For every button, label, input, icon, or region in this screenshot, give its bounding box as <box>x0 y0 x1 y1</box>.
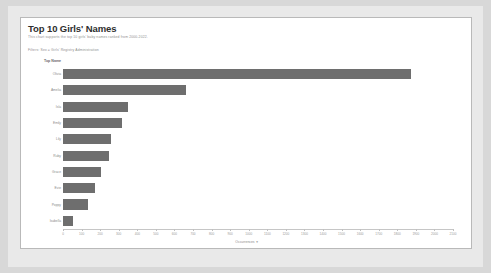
x-axis-tick-label: 500 <box>153 232 158 236</box>
bar[interactable] <box>63 134 111 144</box>
x-axis-tick <box>360 229 361 231</box>
category-label: Lily <box>56 137 61 141</box>
x-axis-tick-label: 1400 <box>320 232 327 236</box>
x-axis-tick-label: 1200 <box>282 232 289 236</box>
x-axis-tick <box>82 229 83 231</box>
bar[interactable] <box>63 102 128 112</box>
x-axis-tick <box>230 229 231 231</box>
x-axis-tick <box>286 229 287 231</box>
bar[interactable] <box>63 216 73 226</box>
bar[interactable] <box>63 199 88 209</box>
x-axis-tick-label: 600 <box>172 232 177 236</box>
category-label: Amelia <box>51 88 61 92</box>
x-axis-tick-label: 2100 <box>450 232 457 236</box>
dashboard-card: Top 10 Girls' Names This chart supports … <box>20 17 472 249</box>
x-axis-tick <box>434 229 435 231</box>
filter-description: Filters: Sex = Girls' Registry Administr… <box>28 48 99 52</box>
x-axis-tick <box>453 229 454 231</box>
x-axis-tick-label: 1300 <box>301 232 308 236</box>
x-axis-tick-label: 900 <box>228 232 233 236</box>
dashboard-subtitle: This chart supports the top 10 girls' ba… <box>28 35 148 39</box>
x-axis-tick <box>212 229 213 231</box>
sort-descending-icon[interactable]: ▼ <box>256 240 259 244</box>
x-axis-tick <box>100 229 101 231</box>
x-axis-tick-label: 1700 <box>375 232 382 236</box>
x-axis-tick <box>323 229 324 231</box>
bar[interactable] <box>63 183 95 193</box>
x-axis-tick <box>156 229 157 231</box>
x-axis-title: Occurrences ▼ <box>21 240 473 244</box>
bar[interactable] <box>63 85 186 95</box>
category-label: Grace <box>52 170 61 174</box>
x-axis-tick-label: 100 <box>79 232 84 236</box>
x-axis-tick-label: 1500 <box>338 232 345 236</box>
x-axis-tick <box>174 229 175 231</box>
x-axis-tick <box>249 229 250 231</box>
x-axis-tick <box>119 229 120 231</box>
bar[interactable] <box>63 151 109 161</box>
category-label: Emily <box>53 121 61 125</box>
x-axis-tick <box>193 229 194 231</box>
bar-chart-plot-area: OliviaAmeliaIslaEmilyLilyRubyGraceEviePo… <box>63 66 453 229</box>
x-axis-tick <box>342 229 343 231</box>
x-axis-tick-label: 1600 <box>357 232 364 236</box>
category-label: Evie <box>55 186 61 190</box>
x-axis-tick-label: 1100 <box>264 232 271 236</box>
x-axis-tick-label: 200 <box>98 232 103 236</box>
x-axis-tick <box>63 229 64 231</box>
x-axis-tick <box>137 229 138 231</box>
category-label: Isabella <box>50 219 61 223</box>
x-axis-tick-label: 1900 <box>412 232 419 236</box>
x-axis-tick-label: 2000 <box>431 232 438 236</box>
category-label: Poppy <box>52 203 61 207</box>
screenshot-root: Top 10 Girls' Names This chart supports … <box>0 0 491 273</box>
x-axis-tick <box>397 229 398 231</box>
page-title: Top 10 Girls' Names <box>28 23 116 34</box>
x-axis-tick-label: 300 <box>116 232 121 236</box>
category-label: Olivia <box>53 72 61 76</box>
bar[interactable] <box>63 118 122 128</box>
x-axis-tick <box>304 229 305 231</box>
x-axis-tick-label: 700 <box>190 232 195 236</box>
category-label: Isla <box>56 105 61 109</box>
x-axis-line <box>63 229 453 230</box>
x-axis-tick <box>267 229 268 231</box>
x-axis-tick <box>416 229 417 231</box>
x-axis-tick-label: 400 <box>135 232 140 236</box>
x-axis-tick-label: 1800 <box>394 232 401 236</box>
series-legend-label: Top Name <box>44 59 61 63</box>
category-label: Ruby <box>53 154 61 158</box>
x-axis-tick-label: 800 <box>209 232 214 236</box>
x-axis-title-text: Occurrences <box>235 240 254 244</box>
x-axis-tick-label: 1000 <box>245 232 252 236</box>
x-axis-tick <box>379 229 380 231</box>
bar[interactable] <box>63 167 101 177</box>
x-axis-tick-label: 0 <box>62 232 64 236</box>
bar[interactable] <box>63 69 411 79</box>
